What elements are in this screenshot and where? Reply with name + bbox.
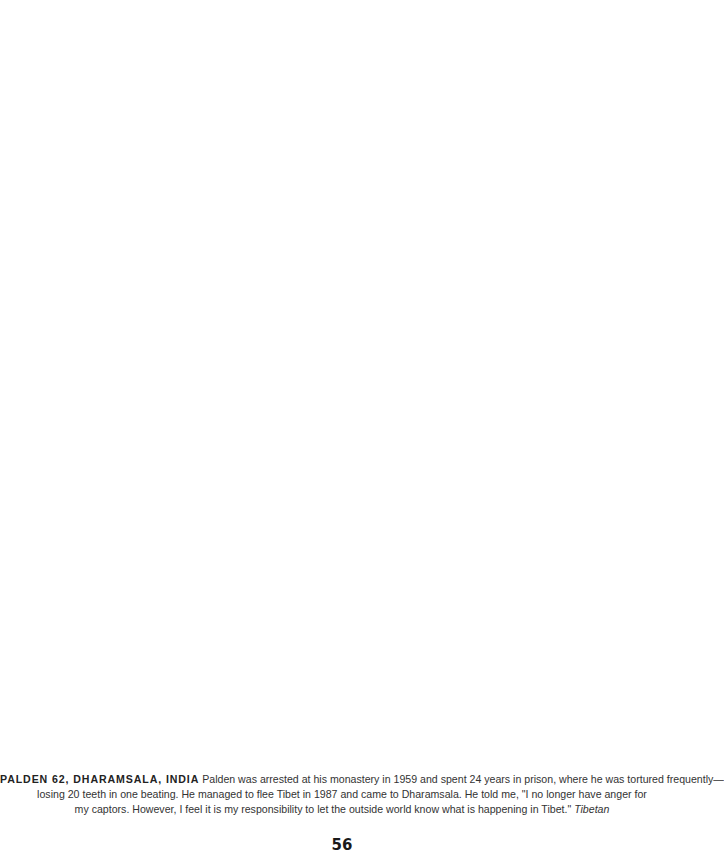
caption-text-3: my captors. However, I feel it is my res…: [75, 803, 575, 815]
photo-area: [0, 0, 684, 768]
page-number: 56: [0, 836, 684, 854]
caption-line-2: losing 20 teeth in one beating. He manag…: [0, 787, 684, 802]
caption-lead: PALDEN 62, DHARAMSALA, INDIA: [0, 773, 199, 785]
caption-line-1: PALDEN 62, DHARAMSALA, INDIA Palden was …: [0, 772, 684, 787]
caption-line-3: my captors. However, I feel it is my res…: [0, 802, 684, 817]
caption-credit: Tibetan: [574, 803, 609, 815]
photo-caption: PALDEN 62, DHARAMSALA, INDIA Palden was …: [0, 772, 684, 817]
caption-text-1: Palden was arrested at his monastery in …: [199, 773, 724, 785]
